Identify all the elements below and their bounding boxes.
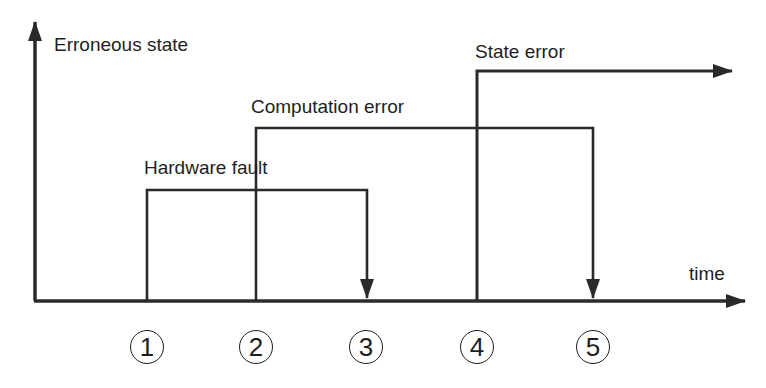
computation-error-label: Computation error bbox=[251, 97, 404, 116]
marker-3: 3 bbox=[349, 330, 383, 364]
marker-1: 1 bbox=[130, 330, 164, 364]
y-axis-label: Erroneous state bbox=[54, 35, 188, 54]
hardware-fault-label: Hardware fault bbox=[144, 158, 268, 177]
state-error-label: State error bbox=[475, 42, 565, 61]
error-timeline-diagram bbox=[0, 0, 766, 388]
marker-4: 4 bbox=[460, 330, 494, 364]
marker-2: 2 bbox=[239, 330, 273, 364]
x-axis-label: time bbox=[689, 264, 725, 283]
marker-5: 5 bbox=[576, 330, 610, 364]
computation-error-signal bbox=[256, 128, 593, 301]
